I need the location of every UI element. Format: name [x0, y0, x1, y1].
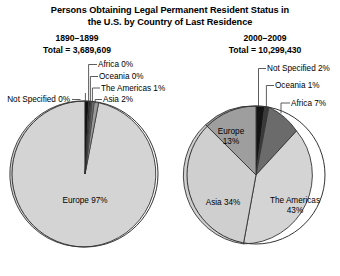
right-pie: [183, 69, 325, 245]
right-leader-oceania: [266, 86, 274, 107]
left-label-oceania: Oceania 0%: [99, 72, 144, 82]
left-label-americas: The Americas 1%: [101, 84, 165, 94]
right-label-americas-line1: The Americas: [255, 196, 335, 206]
right-label-africa: Africa 7%: [291, 99, 326, 109]
right-label-americas-line2: 43%: [255, 206, 335, 216]
right-leader-africa: [281, 103, 290, 114]
left-leader-lines: [72, 65, 102, 103]
right-label-oceania: Oceania 1%: [275, 81, 320, 91]
left-slice-europe: [10, 101, 156, 247]
right-label-europe-line1: Europe: [203, 127, 259, 137]
right-label-americas: The Americas 43%: [255, 196, 335, 215]
right-label-not-specified: Not Specified 2%: [267, 64, 330, 74]
pie-charts-svg: [0, 0, 340, 276]
chart-figure: Persons Obtaining Legal Permanent Reside…: [0, 0, 340, 276]
right-label-asia: Asia 34%: [188, 198, 258, 208]
left-label-europe: Europe 97%: [40, 196, 130, 206]
right-label-europe: Europe 13%: [203, 127, 259, 146]
left-leader-oceania: [90, 77, 98, 102]
left-label-not-specified: Not Specified 0%: [0, 95, 70, 105]
right-leader-not-specified: [259, 69, 267, 107]
left-label-asia: Asia 2%: [103, 95, 133, 105]
left-label-africa: Africa 0%: [98, 60, 133, 70]
right-label-europe-line2: 13%: [203, 137, 259, 147]
